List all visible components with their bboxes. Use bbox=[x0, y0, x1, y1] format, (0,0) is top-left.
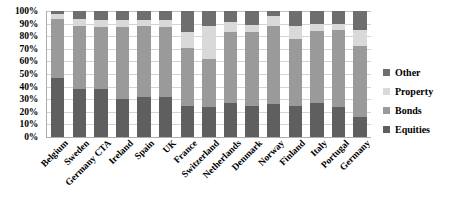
bar-group[interactable] bbox=[198, 11, 220, 137]
bar-group[interactable] bbox=[177, 11, 199, 137]
bar-group[interactable] bbox=[306, 11, 328, 137]
bar-segment-bonds[interactable] bbox=[267, 26, 280, 104]
bar-group[interactable] bbox=[90, 11, 112, 137]
bar-segment-equities[interactable] bbox=[51, 78, 64, 137]
bar-segment-property[interactable] bbox=[310, 24, 323, 32]
y-tick-label: 20% bbox=[20, 107, 38, 117]
legend-item[interactable]: Bonds bbox=[383, 102, 457, 118]
bar-segment-other[interactable] bbox=[159, 11, 172, 20]
bar-stack[interactable] bbox=[245, 11, 258, 137]
legend-item[interactable]: Other bbox=[383, 64, 457, 80]
bar-segment-bonds[interactable] bbox=[181, 48, 194, 106]
bar-stack[interactable] bbox=[353, 11, 366, 137]
bar-segment-bonds[interactable] bbox=[159, 27, 172, 96]
bar-segment-other[interactable] bbox=[202, 11, 215, 26]
bar-group[interactable] bbox=[220, 11, 242, 137]
x-axis: BelgiumSwedenGermany CTAIrelandSpainUKFr… bbox=[46, 138, 370, 205]
bar-segment-property[interactable] bbox=[224, 22, 237, 32]
bar-segment-property[interactable] bbox=[353, 30, 366, 46]
bar-segment-other[interactable] bbox=[137, 11, 150, 20]
bar-segment-equities[interactable] bbox=[202, 107, 215, 137]
bar-group[interactable] bbox=[285, 11, 307, 137]
bar-group[interactable] bbox=[69, 11, 91, 137]
bar-segment-bonds[interactable] bbox=[310, 31, 323, 103]
bar-segment-equities[interactable] bbox=[181, 106, 194, 138]
bar-stack[interactable] bbox=[116, 11, 129, 137]
bar-segment-bonds[interactable] bbox=[94, 27, 107, 89]
bar-stack[interactable] bbox=[51, 11, 64, 137]
bar-group[interactable] bbox=[112, 11, 134, 137]
bar-segment-property[interactable] bbox=[94, 20, 107, 28]
bar-stack[interactable] bbox=[202, 11, 215, 137]
bar-stack[interactable] bbox=[224, 11, 237, 137]
bar-stack[interactable] bbox=[332, 11, 345, 137]
bar-segment-property[interactable] bbox=[267, 16, 280, 26]
bar-segment-equities[interactable] bbox=[116, 99, 129, 137]
plot-area bbox=[46, 11, 371, 138]
bar-segment-property[interactable] bbox=[289, 26, 302, 39]
bar-segment-bonds[interactable] bbox=[289, 39, 302, 106]
bar-group[interactable] bbox=[328, 11, 350, 137]
bar-segment-equities[interactable] bbox=[353, 117, 366, 137]
y-tick-label: 30% bbox=[20, 94, 38, 104]
bar-segment-equities[interactable] bbox=[94, 89, 107, 137]
bar-segment-bonds[interactable] bbox=[51, 19, 64, 78]
y-tick-label: 80% bbox=[20, 31, 38, 41]
y-tick-label: 100% bbox=[15, 6, 38, 16]
bar-group[interactable] bbox=[263, 11, 285, 137]
legend-swatch-icon bbox=[383, 107, 390, 114]
legend-item[interactable]: Equities bbox=[383, 121, 457, 137]
bar-segment-other[interactable] bbox=[310, 11, 323, 24]
legend-item[interactable]: Property bbox=[383, 83, 457, 99]
bar-group[interactable] bbox=[155, 11, 177, 137]
bar-segment-property[interactable] bbox=[181, 32, 194, 47]
bar-series-container bbox=[47, 11, 371, 137]
bar-segment-bonds[interactable] bbox=[224, 32, 237, 103]
bar-group[interactable] bbox=[241, 11, 263, 137]
bar-segment-bonds[interactable] bbox=[137, 26, 150, 97]
legend-label: Other bbox=[395, 67, 421, 78]
bar-stack[interactable] bbox=[159, 11, 172, 137]
bar-segment-equities[interactable] bbox=[332, 107, 345, 137]
bar-segment-property[interactable] bbox=[159, 20, 172, 28]
bar-segment-other[interactable] bbox=[289, 11, 302, 26]
bar-segment-equities[interactable] bbox=[289, 106, 302, 138]
bar-segment-equities[interactable] bbox=[137, 97, 150, 137]
bar-group[interactable] bbox=[349, 11, 371, 137]
legend-swatch-icon bbox=[383, 126, 390, 133]
bar-segment-property[interactable] bbox=[245, 25, 258, 33]
bar-segment-other[interactable] bbox=[94, 11, 107, 20]
bar-segment-bonds[interactable] bbox=[73, 26, 86, 89]
bar-segment-property[interactable] bbox=[116, 20, 129, 28]
bar-segment-equities[interactable] bbox=[310, 103, 323, 137]
bar-stack[interactable] bbox=[310, 11, 323, 137]
bar-segment-property[interactable] bbox=[202, 26, 215, 59]
bar-segment-other[interactable] bbox=[181, 11, 194, 32]
bar-segment-other[interactable] bbox=[245, 11, 258, 25]
bar-segment-equities[interactable] bbox=[224, 103, 237, 137]
bar-segment-other[interactable] bbox=[116, 11, 129, 20]
bar-group[interactable] bbox=[133, 11, 155, 137]
bar-segment-bonds[interactable] bbox=[332, 30, 345, 107]
y-tick-label: 0% bbox=[24, 132, 38, 142]
bar-segment-bonds[interactable] bbox=[116, 27, 129, 99]
bar-segment-equities[interactable] bbox=[267, 104, 280, 137]
bar-segment-other[interactable] bbox=[353, 11, 366, 30]
bar-stack[interactable] bbox=[289, 11, 302, 137]
bar-segment-other[interactable] bbox=[332, 11, 345, 24]
bar-segment-equities[interactable] bbox=[245, 106, 258, 138]
bar-segment-equities[interactable] bbox=[159, 97, 172, 137]
bar-segment-bonds[interactable] bbox=[202, 59, 215, 107]
bar-segment-other[interactable] bbox=[73, 11, 86, 19]
bar-segment-other[interactable] bbox=[224, 11, 237, 22]
bar-stack[interactable] bbox=[73, 11, 86, 137]
bar-stack[interactable] bbox=[137, 11, 150, 137]
bar-segment-property[interactable] bbox=[73, 19, 86, 27]
bar-segment-bonds[interactable] bbox=[353, 46, 366, 117]
bar-segment-equities[interactable] bbox=[73, 89, 86, 137]
bar-stack[interactable] bbox=[181, 11, 194, 137]
bar-segment-bonds[interactable] bbox=[245, 32, 258, 105]
bar-group[interactable] bbox=[47, 11, 69, 137]
bar-stack[interactable] bbox=[94, 11, 107, 137]
bar-stack[interactable] bbox=[267, 11, 280, 137]
